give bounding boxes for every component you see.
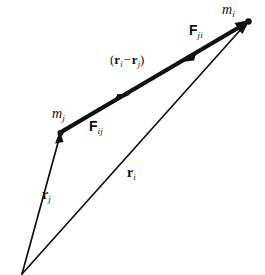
- label-force-ji: Fji: [189, 23, 203, 40]
- label-mass-i: mi: [222, 3, 235, 19]
- separation-vector: [61, 20, 250, 132]
- label-mass-i-symbol: m: [222, 2, 232, 17]
- label-position-i: ri: [127, 166, 136, 182]
- label-force-ij-subscript: ij: [98, 126, 103, 136]
- label-position-j: rj: [42, 188, 51, 204]
- mass-i-node: [245, 18, 251, 24]
- label-separation-close-paren: ): [140, 52, 144, 67]
- label-mass-j-symbol: m: [52, 106, 62, 121]
- label-mass-i-subscript: i: [232, 9, 235, 19]
- separation-mid-arrowhead-icon: [114, 94, 131, 102]
- label-separation-operator: −: [123, 52, 132, 67]
- label-position-i-subscript: i: [133, 172, 136, 182]
- label-force-ij-symbol: F: [89, 118, 98, 134]
- label-mass-j: mj: [52, 107, 65, 123]
- vector-diagram-figure: mi mj Fji Fij (ri−rj) ri rj: [0, 0, 265, 275]
- label-force-ji-symbol: F: [189, 22, 198, 38]
- separation-shaft: [61, 25, 243, 132]
- label-separation-vector: (ri−rj): [110, 53, 144, 68]
- label-mass-j-subscript: j: [62, 113, 65, 123]
- mass-j-node: [58, 130, 64, 136]
- label-position-j-subscript: j: [48, 194, 51, 204]
- label-force-ji-subscript: ji: [198, 30, 203, 40]
- label-force-ij: Fij: [89, 119, 103, 136]
- vector-diagram-canvas: [0, 0, 265, 275]
